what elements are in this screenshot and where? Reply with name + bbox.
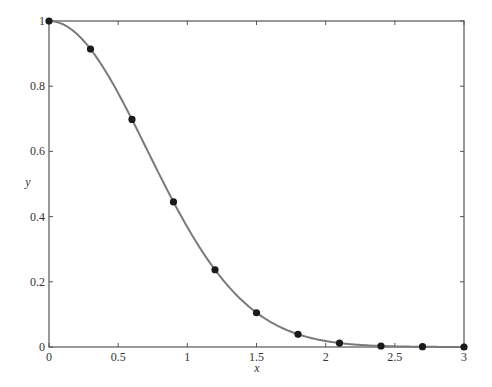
data-markers [45, 17, 467, 350]
x-axis-label: x [253, 361, 260, 375]
y-tick-label: 1 [39, 14, 45, 28]
x-tick-label: 0 [46, 350, 52, 364]
data-curve [49, 21, 464, 347]
x-tick-label: 3 [461, 350, 467, 364]
line-chart: 00.511.522.53 00.20.40.60.81 x y [0, 0, 492, 387]
y-tick-label: 0.2 [30, 275, 45, 289]
y-tick-label: 0.6 [30, 144, 45, 158]
y-tick-label: 0.8 [30, 79, 45, 93]
data-point [460, 343, 467, 350]
data-point [419, 343, 426, 350]
x-tick-label: 2 [323, 350, 329, 364]
data-point [377, 342, 384, 349]
x-tick-label: 1 [184, 350, 190, 364]
data-point [253, 309, 260, 316]
data-point [87, 45, 94, 52]
y-axis-ticks: 00.20.40.60.81 [30, 14, 464, 354]
y-tick-label: 0.4 [30, 210, 45, 224]
data-point [45, 17, 52, 24]
x-tick-label: 0.5 [111, 350, 126, 364]
x-tick-label: 2.5 [387, 350, 402, 364]
y-tick-label: 0 [39, 340, 45, 354]
plot-frame [49, 21, 464, 347]
data-point [211, 266, 218, 273]
data-point [170, 198, 177, 205]
data-point [294, 331, 301, 338]
y-axis-label: y [24, 175, 31, 189]
data-point [128, 116, 135, 123]
data-point [336, 339, 343, 346]
